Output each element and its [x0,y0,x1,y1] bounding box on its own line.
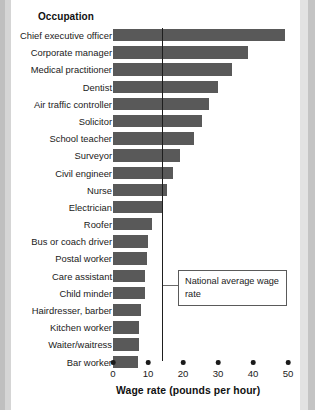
bar-row: Waiter/waitress [13,337,298,354]
x-axis-tick-dot [251,360,256,365]
national-average-reference-line [162,28,163,361]
x-axis-tick-label: 40 [248,368,259,379]
bar [113,304,141,316]
bar [113,46,248,58]
bar-row: Medical practitioner [13,62,298,79]
bar [113,321,139,333]
bar-category-label: Surveyor [0,150,112,161]
x-axis: 01020304050 [13,360,298,386]
x-axis-tick-label: 30 [213,368,224,379]
bar-category-label: Civil engineer [0,168,112,179]
bar [113,167,173,179]
x-axis-tick-dot [146,360,151,365]
x-axis-tick-label: 20 [178,368,189,379]
bar [113,149,180,161]
bar-row: Surveyor [13,148,298,165]
bar-category-label: Air traffic controller [0,99,112,110]
bar-row: Roofer [13,217,298,234]
bar [113,235,148,247]
bar-category-label: Corporate manager [0,47,112,58]
bar-row: Dentist [13,80,298,97]
bar-row: School teacher [13,131,298,148]
bar-category-label: Postal worker [0,253,112,264]
chart-title: Occupation [22,11,110,22]
bar [113,184,167,196]
bar-category-label: Care assistant [0,271,112,282]
bar-category-label: Nurse [0,185,112,196]
x-axis-tick-dot [111,360,116,365]
bar-category-label: School teacher [0,133,112,144]
bar [113,81,218,93]
bar-category-label: Solicitor [0,116,112,127]
bar-category-label: Roofer [0,219,112,230]
bar-row: Corporate manager [13,45,298,62]
bar-category-label: Dentist [0,82,112,93]
bar [113,287,145,299]
bar [113,252,147,264]
x-axis-tick-label: 50 [283,368,294,379]
bar-row: Postal worker [13,251,298,268]
bar-category-label: Child minder [0,288,112,299]
bar [113,29,285,41]
bar-category-label: Electrician [0,202,112,213]
bar [113,270,145,282]
x-axis-tick-label: 0 [110,368,115,379]
bar-category-label: Kitchen worker [0,322,112,333]
x-axis-tick-label: 10 [143,368,154,379]
chart-figure: Occupation Chief executive officerCorpor… [0,0,315,410]
bar-row: Electrician [13,200,298,217]
bar-row: Chief executive officer [13,28,298,45]
bar [113,115,202,127]
x-axis-tick-dot [216,360,221,365]
bar-row: Kitchen worker [13,320,298,337]
bar-row: Air traffic controller [13,97,298,114]
annotation-leader-line [163,285,179,286]
bar [113,218,152,230]
bar-category-label: Hairdresser, barber [0,305,112,316]
x-axis-tick-dot [181,360,186,365]
bar-rows: Chief executive officerCorporate manager… [13,28,298,372]
bar [113,132,194,144]
x-axis-title: Wage rate (pounds per hour) [13,385,298,396]
bar [113,201,162,213]
bar-row: Solicitor [13,114,298,131]
bar-category-label: Waiter/waitress [0,339,112,350]
bar-category-label: Chief executive officer [0,30,112,41]
bar [113,63,232,75]
bar [113,338,139,350]
bar-row: Bus or coach driver [13,234,298,251]
bar-row: Civil engineer [13,166,298,183]
bar-category-label: Bus or coach driver [0,236,112,247]
bar-category-label: Medical practitioner [0,64,112,75]
national-average-annotation: National average wage rate [178,270,287,306]
x-axis-tick-dot [286,360,291,365]
bar-row: Nurse [13,183,298,200]
